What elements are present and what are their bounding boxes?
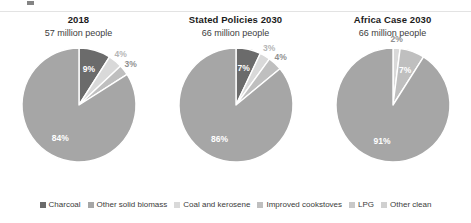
legend-swatch-icon [174,202,180,208]
legend-swatch-icon [40,202,46,208]
cropped-marker-icon [27,1,34,5]
legend-item[interactable]: Coal and kerosene [174,200,250,209]
legend-label: LPG [358,200,374,209]
panel-title: 2018 [68,14,90,26]
legend-label: Other clean [390,200,431,209]
legend-label: Improved cookstoves [266,200,342,209]
pie-svg [333,45,453,165]
panel-subtitle: 66 million people [202,27,270,39]
legend-swatch-icon [381,202,387,208]
top-divider [0,11,471,12]
legend-item[interactable]: LPG [349,200,374,209]
pie-chart-0: 9%4%3%84% [19,45,139,165]
legend-item[interactable]: Other clean [381,200,431,209]
legend-swatch-icon [257,202,263,208]
legend-label: Coal and kerosene [183,200,250,209]
legend-swatch-icon [349,202,355,208]
legend-item[interactable]: Improved cookstoves [257,200,342,209]
pie-panel-2018: 2018 57 million people 9%4%3%84% [0,14,157,165]
legend-item[interactable]: Charcoal [40,200,81,209]
chart-legend: CharcoalOther solid biomassCoal and kero… [0,200,471,209]
pie-panel-africa-case-2030: Africa Case 2030 66 million people 2%7%9… [314,14,471,165]
panel-title: Africa Case 2030 [354,14,432,26]
legend-label: Charcoal [49,200,81,209]
pie-svg [176,45,296,165]
legend-label: Other solid biomass [97,200,168,209]
panel-subtitle: 66 million people [359,27,427,39]
pie-chart-panels: 2018 57 million people 9%4%3%84% Stated … [0,14,471,194]
legend-swatch-icon [88,202,94,208]
pie-panel-stated-policies-2030: Stated Policies 2030 66 million people 7… [157,14,314,165]
pie-svg [19,45,139,165]
pie-slice[interactable] [336,48,450,162]
pie-chart-1: 7%3%4%86% [176,45,296,165]
legend-item[interactable]: Other solid biomass [88,200,168,209]
panel-title: Stated Policies 2030 [189,14,282,26]
pie-chart-2: 2%7%91% [333,45,453,165]
panel-subtitle: 57 million people [45,27,113,39]
